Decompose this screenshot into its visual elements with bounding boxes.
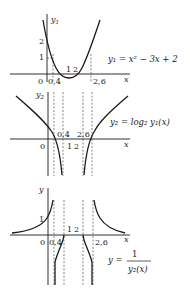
equation-y1: y₁ = x² − 3x + 2	[107, 54, 178, 64]
tick-origin: 0	[40, 238, 45, 247]
panel-2-logarithm: y2 0,4 2,6 0 1 2 x y₂ = log₂ y₁(x)	[10, 90, 170, 176]
reciprocal-right-outer-branch	[94, 200, 125, 233]
log-curve-right-branch	[84, 96, 128, 175]
tick-x-1: 1	[66, 65, 71, 74]
function-graphs-figure: y1 2 1 1 2 0 0,4 2,6 x y₁ = x² − 3x + 2 …	[0, 0, 190, 295]
tick-origin: 0	[38, 77, 43, 86]
y2-axis-label: y2	[35, 90, 45, 100]
tick-y-1: 1	[39, 215, 44, 224]
tick-x-2.6: 2,6	[77, 130, 90, 139]
tick-x-2.6: 2,6	[93, 77, 106, 86]
equation-y-lhs: y =	[107, 255, 123, 265]
equation-numerator: 1	[132, 249, 137, 259]
reciprocal-left-outer-branch	[12, 200, 53, 233]
tick-x-0.4: 0,4	[48, 77, 61, 86]
panel-3-reciprocal: y 1 1 2 0 0,4 2,6 x y = 1 y₂(x)	[10, 185, 151, 285]
tick-origin: 0	[40, 142, 45, 151]
tick-x-2: 2	[74, 142, 79, 151]
tick-x-0.4: 0,4	[57, 130, 70, 139]
equation-denominator: y₂(x)	[127, 264, 148, 274]
tick-x-2: 2	[73, 65, 78, 74]
panel-1-parabola: y1 2 1 1 2 0 0,4 2,6 x y₁ = x² − 3x + 2	[10, 14, 178, 86]
log-curve-left-branch	[16, 96, 62, 175]
x-axis-label: x	[124, 140, 129, 149]
tick-y-2: 2	[39, 37, 44, 46]
tick-x-1: 1	[67, 142, 72, 151]
parabola-curve	[43, 20, 100, 78]
tick-x-2.6: 2,6	[95, 238, 108, 247]
reciprocal-right-inner-branch	[83, 235, 92, 285]
x-axis-label: x	[124, 75, 129, 84]
tick-x-2: 2	[74, 225, 79, 234]
y1-axis-label: y1	[50, 15, 59, 25]
tick-x-0.4: 0,4	[49, 238, 62, 247]
tick-x-1: 1	[67, 225, 72, 234]
equation-y2: y₂ = log₂ y₁(x)	[109, 117, 170, 127]
y-axis-label: y	[38, 185, 44, 194]
x-axis-label: x	[124, 235, 129, 244]
tick-y-1: 1	[39, 53, 44, 62]
